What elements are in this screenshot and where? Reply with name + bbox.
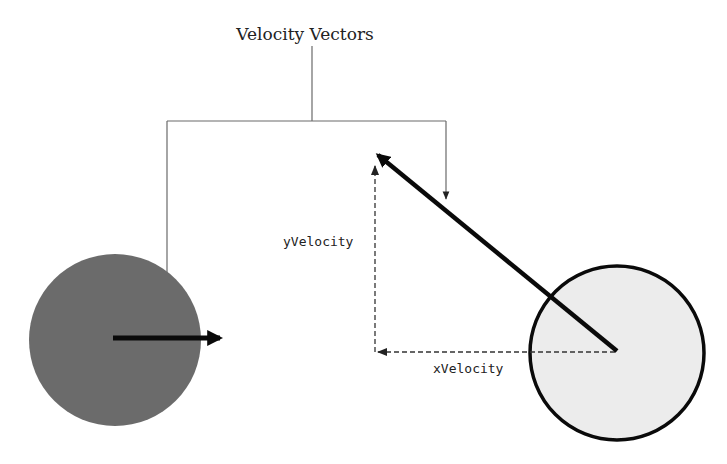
velocity-vectors-diagram: Velocity Vectors yVelocity xVelocity [0, 0, 727, 464]
right-ball-velocity-vector [378, 155, 617, 351]
diagram-title: Velocity Vectors [235, 24, 373, 44]
y-velocity-label: yVelocity [283, 234, 354, 249]
x-velocity-label: xVelocity [433, 361, 504, 376]
title-callout-bracket [167, 46, 446, 331]
right-ball [530, 266, 704, 440]
